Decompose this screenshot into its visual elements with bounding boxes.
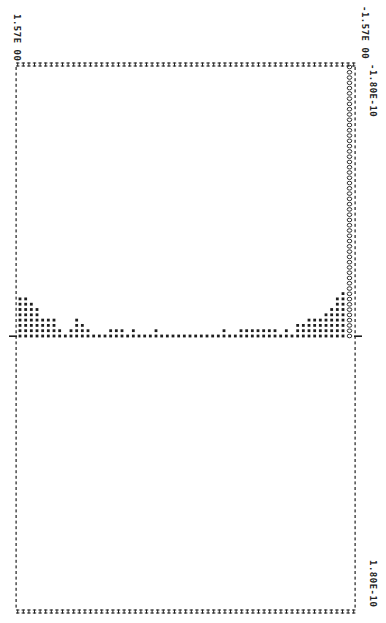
y-max-label: 1.57E 00 [12,14,22,61]
x-max-label: 1.80E-10 [368,560,378,607]
y-min-label: -1.57E 00 [360,6,370,59]
data-dots [19,292,345,337]
o-column-marker [347,65,352,338]
plot-frame [9,63,362,614]
chart-plot [0,0,386,623]
x-min-label: -1.80E-10 [368,64,378,117]
